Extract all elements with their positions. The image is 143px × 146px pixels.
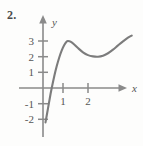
graph-figure: 2. 3 2 1 -1 -2 1 <box>0 0 143 146</box>
y-tick-label-neg2: -2 <box>25 113 34 125</box>
y-tick-label-3: 3 <box>29 35 35 47</box>
y-axis-label: y <box>51 16 57 28</box>
x-tick-label-2: 2 <box>85 95 91 107</box>
x-tick-label-1: 1 <box>60 95 66 107</box>
y-tick-label-2: 2 <box>29 51 35 63</box>
x-axis <box>19 84 127 92</box>
x-axis-arrowhead-icon <box>119 84 128 92</box>
coordinate-plot: 3 2 1 -1 -2 1 2 y x <box>0 0 143 146</box>
y-tick-label-neg1: -1 <box>25 98 34 110</box>
function-curve <box>46 36 132 123</box>
x-axis-label: x <box>131 82 137 94</box>
y-axis-arrowhead-icon <box>39 15 47 24</box>
y-tick-label-1: 1 <box>29 66 35 78</box>
